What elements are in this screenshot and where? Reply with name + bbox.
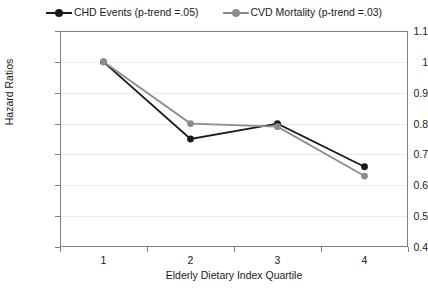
x-axis-title: Elderly Dietary Index Quartile [60,269,408,281]
y-tick-label: 1 [376,57,428,67]
y-tick-mark [55,93,60,94]
y-tick-label: 0.6 [376,180,428,190]
legend-item-1[interactable]: CHD Events (p-trend =.05) [46,6,199,18]
y-tick-label: 0.9 [376,88,428,98]
x-tick-label: 4 [335,254,395,266]
legend-label-1: CHD Events (p-trend =.05) [74,6,199,18]
x-tick-label: 2 [161,254,221,266]
y-tick-mark [55,31,60,32]
legend-marker-icon-1 [46,7,72,18]
x-tick-label: 1 [74,254,134,266]
plot-area [60,31,408,247]
gridline [61,216,407,217]
y-tick-mark [55,62,60,63]
chart-container: CHD Events (p-trend =.05)CVD Mortality (… [0,0,428,291]
x-tick-mark [147,247,148,252]
chart-legend: CHD Events (p-trend =.05)CVD Mortality (… [0,6,428,18]
y-tick-label: 0.8 [376,119,428,129]
legend-label-2: CVD Mortality (p-trend =.03) [251,6,383,18]
legend-marker-icon-2 [223,7,249,18]
x-tick-mark [60,247,61,252]
gridline [61,185,407,186]
y-tick-mark [55,124,60,125]
gridline [61,93,407,94]
y-tick-label: 0.7 [376,149,428,159]
x-tick-mark [408,247,409,252]
gridline [61,62,407,63]
x-tick-mark [321,247,322,252]
y-axis-title: Hazard Ratios [3,32,15,152]
y-tick-mark [55,216,60,217]
gridline [61,124,407,125]
x-tick-label: 3 [248,254,308,266]
y-tick-label: 0.5 [376,211,428,221]
y-tick-mark [55,185,60,186]
legend-item-2[interactable]: CVD Mortality (p-trend =.03) [223,6,383,18]
y-tick-label: 0.4 [376,242,428,252]
x-tick-mark [234,247,235,252]
y-tick-mark [55,154,60,155]
gridline [61,154,407,155]
y-tick-label: 1.1 [376,26,428,36]
